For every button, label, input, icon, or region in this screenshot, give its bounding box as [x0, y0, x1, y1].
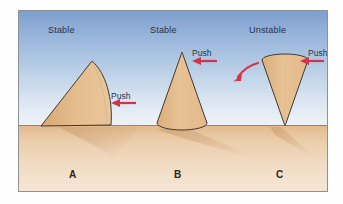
figure-root: Stable Stable Unstable Push Push Push A … [0, 0, 343, 204]
push-arrow-b-icon [192, 57, 217, 65]
tip-arrow-c-icon [233, 63, 258, 82]
panel-letter-b: B [174, 169, 181, 180]
push-label-a: Push [111, 91, 130, 101]
panel-letter-c: C [276, 169, 283, 180]
cone-a-shape [41, 61, 111, 126]
scene-graphics [19, 11, 328, 192]
state-label-c: Unstable [249, 25, 286, 35]
panel-letter-a: A [69, 169, 76, 180]
ground-shadows [59, 127, 319, 163]
cone-c-shape [262, 54, 308, 126]
scene-frame: Stable Stable Unstable Push Push Push A … [18, 10, 328, 192]
state-label-b: Stable [150, 25, 177, 35]
push-label-c: Push [308, 48, 327, 58]
push-label-b: Push [192, 48, 211, 58]
state-label-a: Stable [48, 25, 75, 35]
